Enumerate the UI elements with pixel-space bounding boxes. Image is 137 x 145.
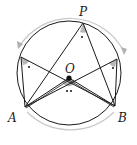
label-B: B [117, 111, 127, 125]
label-O: O [65, 62, 75, 76]
angle-mark-O-2 [70, 90, 72, 92]
segment-OB-2 [69, 80, 114, 107]
label-P: P [78, 5, 88, 19]
angle-mark-O-1 [66, 90, 68, 92]
diagram-canvas: P O A B [0, 0, 137, 145]
circle-diagram: P O A B [0, 0, 137, 145]
label-A: A [7, 111, 17, 125]
segment-OB [69, 78, 115, 106]
angle-mark-R [112, 67, 114, 69]
top-guide-arc [19, 18, 124, 52]
angle-mark-L [28, 66, 30, 68]
segment-OA-2 [26, 80, 69, 108]
center-point [66, 75, 71, 80]
bottom-guide-arc [27, 112, 114, 130]
segment-RB [115, 59, 117, 106]
segment-OA [25, 78, 69, 107]
angle-mark-P [81, 36, 83, 38]
right-arrow-icon [121, 47, 127, 55]
